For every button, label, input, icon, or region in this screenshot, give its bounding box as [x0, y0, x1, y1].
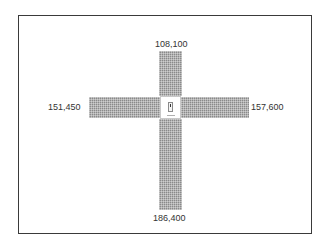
arm-left-label: 151,450 — [48, 102, 81, 112]
arm-top-bar — [159, 51, 182, 96]
arm-right-bar — [181, 97, 249, 118]
arm-bottom-bar — [159, 119, 182, 210]
device-base-line — [167, 115, 175, 116]
arm-top-label: 108,100 — [155, 39, 188, 49]
device-icon — [168, 102, 173, 112]
center-node — [160, 96, 181, 119]
device-indicator — [170, 104, 171, 107]
arm-right-label: 157,600 — [251, 102, 284, 112]
arm-bottom-label: 186,400 — [153, 213, 186, 223]
arm-left-bar — [89, 97, 160, 118]
